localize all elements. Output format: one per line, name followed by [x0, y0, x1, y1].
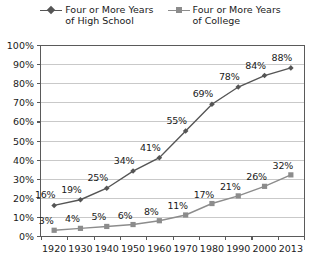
x-axis-tick: [251, 236, 252, 240]
data-point-label: 25%: [87, 172, 108, 183]
x-axis-label: 1930: [68, 243, 92, 254]
plot-wrapper: 0%10%20%30%40%50%60%70%80%90%100% 192019…: [0, 40, 321, 270]
data-point-marker: [78, 226, 83, 231]
legend-label-college: Four or More Yearsof College: [193, 4, 281, 26]
x-axis-tick: [304, 236, 305, 240]
chart-legend: Four or More Yearsof High School Four or…: [0, 4, 321, 26]
x-axis-label: 1980: [200, 243, 224, 254]
legend-label-high-school-line1: Four or More Years: [65, 4, 153, 15]
y-axis-label: 90%: [13, 59, 34, 70]
legend-marker-square-icon: [168, 4, 190, 17]
x-axis-tick: [278, 236, 279, 240]
data-point-label: 11%: [167, 200, 188, 211]
y-axis-label: 0%: [19, 231, 34, 242]
y-axis-label: 60%: [13, 116, 34, 127]
data-point-marker: [130, 222, 135, 227]
x-axis-tick: [199, 236, 200, 240]
data-point-label: 69%: [193, 88, 214, 99]
data-point-marker: [288, 172, 293, 177]
y-axis-label: 80%: [13, 78, 34, 89]
data-point-label: 34%: [114, 155, 135, 166]
data-point-label: 32%: [273, 160, 294, 171]
data-point-marker: [262, 184, 267, 189]
data-point-marker: [288, 65, 294, 71]
y-axis-label: 100%: [7, 40, 34, 51]
data-point-marker: [51, 203, 57, 209]
x-axis-label: 1950: [121, 243, 145, 254]
data-point-marker: [52, 228, 57, 233]
data-point-label: 17%: [194, 189, 215, 200]
chart-container: Four or More Yearsof High School Four or…: [0, 0, 321, 270]
data-point-label: 26%: [246, 171, 267, 182]
legend-item-high-school: Four or More Yearsof High School: [40, 4, 153, 26]
data-point-label: 19%: [61, 184, 82, 195]
data-point-label: 4%: [65, 213, 80, 224]
x-axis-label: 1920: [42, 243, 66, 254]
y-axis-label: 40%: [13, 154, 34, 165]
y-axis-label: 20%: [13, 192, 34, 203]
x-axis-tick: [146, 236, 147, 240]
data-point-label: 16%: [35, 189, 56, 200]
x-axis-tick: [225, 236, 226, 240]
data-point-marker: [209, 201, 214, 206]
data-point-marker: [236, 193, 241, 198]
y-axis-label: 50%: [13, 135, 34, 146]
data-point-label: 41%: [140, 142, 161, 153]
x-axis-tick: [173, 236, 174, 240]
y-axis-label: 30%: [13, 173, 34, 184]
x-axis-label: 2013: [279, 243, 303, 254]
legend-label-college-line1: Four or More Years: [193, 4, 281, 15]
data-point-label: 5%: [91, 211, 106, 222]
legend-label-high-school-line2: of High School: [65, 15, 134, 26]
legend-marker-diamond-icon: [40, 4, 62, 17]
plot-area: 0%10%20%30%40%50%60%70%80%90%100% 192019…: [40, 45, 305, 237]
x-axis-tick: [41, 236, 42, 240]
data-point-marker: [78, 197, 84, 203]
data-point-label: 6%: [118, 210, 133, 221]
legend-item-college: Four or More Yearsof College: [168, 4, 281, 26]
data-point-label: 21%: [220, 181, 241, 192]
x-axis-label: 1960: [147, 243, 171, 254]
data-point-label: 55%: [166, 115, 187, 126]
series-line: [54, 68, 291, 206]
data-point-label: 8%: [144, 206, 159, 217]
legend-label-high-school: Four or More Yearsof High School: [65, 4, 153, 26]
x-axis-label: 1940: [95, 243, 119, 254]
x-axis-label: 1990: [226, 243, 250, 254]
x-axis-tick: [120, 236, 121, 240]
data-point-marker: [262, 73, 268, 79]
data-point-label: 78%: [219, 71, 240, 82]
x-axis-tick: [94, 236, 95, 240]
x-axis-label: 2000: [252, 243, 276, 254]
legend-label-college-line2: of College: [193, 15, 241, 26]
data-point-label: 3%: [39, 215, 54, 226]
data-point-marker: [104, 224, 109, 229]
x-axis-label: 1970: [174, 243, 198, 254]
data-point-marker: [157, 218, 162, 223]
data-point-label: 84%: [245, 60, 266, 71]
x-axis-tick: [67, 236, 68, 240]
data-point-label: 88%: [272, 52, 293, 63]
data-point-marker: [183, 212, 188, 217]
y-axis-label: 10%: [13, 211, 34, 222]
y-axis-label: 70%: [13, 97, 34, 108]
